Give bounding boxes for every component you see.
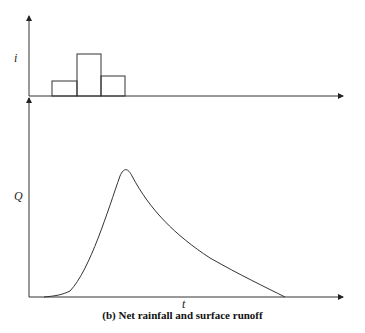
hydrograph-figure bbox=[0, 0, 365, 333]
rain-bar-3 bbox=[101, 76, 125, 96]
rain-bar-2 bbox=[77, 54, 101, 96]
figure-caption: (b) Net rainfall and surface runoff bbox=[0, 309, 365, 321]
rain-bar-1 bbox=[52, 81, 77, 96]
rainfall-chart bbox=[29, 16, 343, 96]
runoff-chart bbox=[29, 98, 343, 297]
q-axis-label: Q bbox=[14, 189, 23, 204]
runoff-curve bbox=[44, 170, 285, 297]
i-axis-label: i bbox=[14, 51, 17, 66]
